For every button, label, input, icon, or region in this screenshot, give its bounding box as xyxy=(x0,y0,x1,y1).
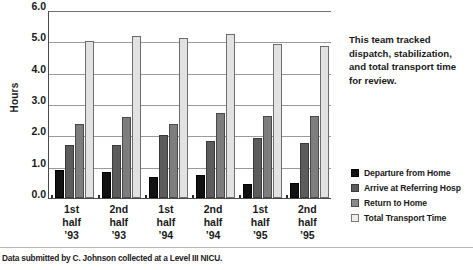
x-axis-tick-label-line: half xyxy=(284,216,330,229)
y-axis-tick-6.0: 6.0 xyxy=(31,1,46,12)
legend-swatch-icon xyxy=(351,214,359,222)
x-axis-tick-label: 2ndhalf’93 xyxy=(96,203,142,242)
chart-figure: Hours 0.01.02.03.04.05.06.0 1sthalf’932n… xyxy=(0,0,473,270)
bar xyxy=(112,145,121,198)
bar xyxy=(159,135,168,198)
bar-group xyxy=(98,11,141,198)
side-note-line: dispatch, stabilization, xyxy=(349,47,471,61)
bar xyxy=(310,116,319,198)
x-axis-tick-label: 1sthalf’95 xyxy=(237,203,283,242)
legend-swatch-icon xyxy=(351,184,359,192)
group-tick-mark xyxy=(145,195,147,198)
bar xyxy=(320,46,329,198)
group-tick-mark xyxy=(239,195,241,198)
y-axis-tick-3.0: 3.0 xyxy=(31,95,46,106)
legend-item-label: Return to Home xyxy=(364,198,427,208)
y-axis-tick-labels: 0.01.02.03.04.05.06.0 xyxy=(18,6,46,200)
side-note-line: for review. xyxy=(349,74,471,88)
x-axis-tick-label-line: ’93 xyxy=(96,229,142,242)
x-axis-tick-label-line: ’93 xyxy=(49,229,95,242)
bar xyxy=(149,177,158,198)
x-axis-tick-label-line: ’94 xyxy=(190,229,236,242)
x-axis-tick-label-line: ’95 xyxy=(284,229,330,242)
x-axis-tick-label-line: 1st xyxy=(49,203,95,216)
x-axis-tick-label-line: 2nd xyxy=(96,203,142,216)
bar-group xyxy=(145,11,188,198)
bar xyxy=(216,113,225,198)
x-axis-tick-label-line: ’94 xyxy=(143,229,189,242)
bar xyxy=(65,145,74,198)
y-axis-tick-5.0: 5.0 xyxy=(31,32,46,43)
bar-group xyxy=(286,11,329,198)
x-axis-tick-label-line: ’95 xyxy=(237,229,283,242)
bar xyxy=(75,124,84,198)
footer-divider xyxy=(0,247,473,248)
y-axis-tick-2.0: 2.0 xyxy=(31,126,46,137)
side-note-line: and total transport time xyxy=(349,60,471,74)
x-axis-tick-label-line: 1st xyxy=(237,203,283,216)
bar xyxy=(196,175,205,198)
y-axis-tick-1.0: 1.0 xyxy=(31,157,46,168)
group-tick-mark xyxy=(192,195,194,198)
x-axis-tick-label-line: 2nd xyxy=(190,203,236,216)
bar xyxy=(206,141,215,198)
legend-swatch-icon xyxy=(351,169,359,177)
bar-group xyxy=(239,11,282,198)
legend-item: Arrive at Referring Hosp xyxy=(351,181,473,195)
bar xyxy=(122,117,131,198)
legend-item-label: Departure from Home xyxy=(364,168,450,178)
bar xyxy=(85,41,94,198)
side-note-line: This team tracked xyxy=(349,33,471,47)
legend-item: Total Transport Time xyxy=(351,211,473,225)
group-tick-mark xyxy=(286,195,288,198)
bar xyxy=(290,183,299,198)
side-note-text: This team trackeddispatch, stabilization… xyxy=(349,33,471,87)
bar xyxy=(300,143,309,198)
plot-area xyxy=(48,11,331,199)
x-axis-tick-label-line: half xyxy=(96,216,142,229)
legend-swatch-icon xyxy=(351,199,359,207)
bar xyxy=(132,36,141,198)
chart-legend: Departure from HomeArrive at Referring H… xyxy=(351,166,473,226)
bar xyxy=(179,38,188,198)
bar xyxy=(273,44,282,198)
legend-item: Departure from Home xyxy=(351,166,473,180)
y-axis-tick-4.0: 4.0 xyxy=(31,63,46,74)
x-axis-tick-labels: 1sthalf’932ndhalf’931sthalf’942ndhalf’94… xyxy=(48,203,331,242)
group-tick-mark xyxy=(51,195,53,198)
x-axis-tick-label-line: half xyxy=(49,216,95,229)
x-axis-tick-label-line: 2nd xyxy=(284,203,330,216)
bar xyxy=(253,138,262,198)
y-axis-tick-0.0: 0.0 xyxy=(31,189,46,200)
group-tick-mark xyxy=(98,195,100,198)
bar xyxy=(263,116,272,198)
x-axis-tick-label: 1sthalf’93 xyxy=(49,203,95,242)
source-caption: Data submitted by C. Johnson collected a… xyxy=(2,253,222,263)
bar-group xyxy=(51,11,94,198)
legend-item-label: Total Transport Time xyxy=(364,213,446,223)
bar xyxy=(226,34,235,198)
legend-item: Return to Home xyxy=(351,196,473,210)
bar xyxy=(55,170,64,198)
bar xyxy=(102,172,111,198)
bar-groups xyxy=(49,11,331,198)
bar xyxy=(243,184,252,198)
x-axis-tick-label: 1sthalf’94 xyxy=(143,203,189,242)
bar-group xyxy=(192,11,235,198)
x-axis-tick-label-line: half xyxy=(143,216,189,229)
x-axis-tick-label-line: 1st xyxy=(143,203,189,216)
legend-item-label: Arrive at Referring Hosp xyxy=(364,183,461,193)
x-axis-tick-label: 2ndhalf’95 xyxy=(284,203,330,242)
bar xyxy=(169,124,178,198)
x-axis-tick-label: 2ndhalf’94 xyxy=(190,203,236,242)
x-axis-tick-label-line: half xyxy=(190,216,236,229)
x-axis-tick-label-line: half xyxy=(237,216,283,229)
